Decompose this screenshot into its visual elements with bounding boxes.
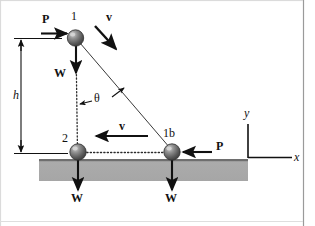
label-velocity-middle: v xyxy=(119,120,125,132)
coordinate-axes xyxy=(248,124,292,158)
label-weight-top: W xyxy=(54,67,66,79)
label-weight-bottom-right: W xyxy=(165,192,177,204)
label-axis-y: y xyxy=(244,107,249,119)
ground-slab xyxy=(39,159,248,181)
label-position-1: 1 xyxy=(71,10,77,22)
label-position-1b: 1b xyxy=(163,127,175,139)
velocity-top-arrow xyxy=(95,26,116,49)
label-axis-x: x xyxy=(294,151,299,163)
label-velocity-top: v xyxy=(106,11,112,23)
ball-position-1 xyxy=(67,30,83,46)
height-dimension xyxy=(14,39,68,154)
label-force-p-top: P xyxy=(42,13,49,25)
ball-position-1b xyxy=(164,144,180,160)
angle-indicator xyxy=(80,88,124,104)
diagram-canvas xyxy=(0,0,315,226)
label-angle-theta: θ xyxy=(94,92,100,104)
label-force-p-right: P xyxy=(216,140,223,152)
physics-diagram-figure: 1 2 1b h θ y x P P v v W W W xyxy=(0,0,315,226)
ball-position-2 xyxy=(70,144,86,160)
label-weight-bottom-left: W xyxy=(71,192,83,204)
label-position-2: 2 xyxy=(62,132,68,144)
label-height-h: h xyxy=(13,89,19,101)
